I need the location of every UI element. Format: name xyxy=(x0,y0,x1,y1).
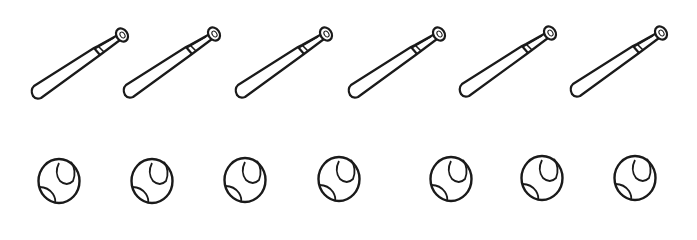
baseball-bat-icon xyxy=(28,24,132,100)
baseball-icon xyxy=(129,157,175,205)
baseball-bat-icon xyxy=(345,23,449,99)
baseball-icon xyxy=(612,154,658,202)
baseball-bat-icon xyxy=(232,23,336,99)
baseball-bat-icon xyxy=(120,23,224,99)
baseball-icon xyxy=(428,155,474,203)
baseball-bat-icon xyxy=(567,22,671,98)
baseball-icon xyxy=(316,155,362,203)
baseball-icon xyxy=(36,157,82,205)
baseball-bat-icon xyxy=(456,22,560,98)
baseball-icon xyxy=(222,156,268,204)
baseball-icon xyxy=(519,154,565,202)
